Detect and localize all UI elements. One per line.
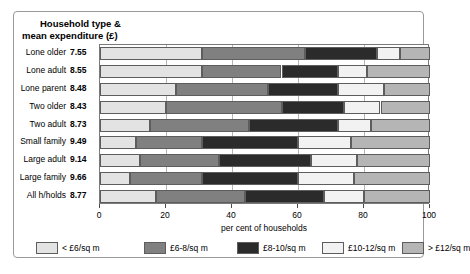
bar-row [100, 154, 428, 167]
bar-segment [100, 190, 156, 203]
y-axis-label-value: 9.66 [70, 171, 96, 184]
bar-segment [150, 119, 249, 132]
x-axis-tick-label: 40 [211, 210, 251, 220]
bar-segment [100, 119, 150, 132]
y-axis-label-name: Lone adult [26, 64, 66, 77]
chart-figure: Household type & mean expenditure (£) Lo… [13, 11, 424, 258]
bar-row [100, 172, 428, 185]
legend-swatch [237, 242, 259, 254]
x-axis-tick-label: 100 [409, 210, 449, 220]
bar-segment [324, 190, 364, 203]
bar-row [100, 83, 428, 96]
bar-segment [140, 154, 219, 167]
bar-segment [100, 65, 202, 78]
bar-segment [176, 83, 268, 96]
y-axis-label-name: Lone older [26, 46, 66, 59]
bar-segment [100, 101, 166, 114]
y-axis-label: Lone parent8.48 [14, 82, 96, 95]
bar-segment [377, 47, 400, 60]
x-axis-tick [99, 204, 100, 208]
chart-header-line2: mean expenditure (£) [22, 30, 212, 42]
bar-segment [202, 47, 304, 60]
bar-segment [354, 172, 430, 185]
bar-segment [249, 119, 338, 132]
bar-segment [384, 83, 430, 96]
bar-segment [100, 83, 176, 96]
legend: < £6/sq m£6-8/sq m£8-10/sq m£10-12/sq m>… [22, 240, 417, 256]
y-axis-label-name: Large family [20, 171, 66, 184]
bar-segment [371, 119, 430, 132]
bar-segment [100, 154, 140, 167]
bar-segment [344, 101, 380, 114]
legend-swatch [402, 242, 424, 254]
y-axis-label-value: 8.48 [70, 82, 96, 95]
y-axis-label-value: 8.55 [70, 64, 96, 77]
y-axis-label-name: Small family [20, 135, 66, 148]
legend-label: £6-8/sq m [170, 243, 208, 253]
bar-segment [364, 190, 430, 203]
chart-header: Household type & mean expenditure (£) [22, 18, 212, 42]
bar-segment [136, 136, 202, 149]
x-axis-title: per cent of households [99, 223, 429, 233]
bar-segment [338, 65, 368, 78]
y-axis-label-name: Lone parent [21, 82, 66, 95]
bar-segment [166, 101, 282, 114]
bar-segment [219, 154, 311, 167]
x-axis-tick-label: 80 [343, 210, 383, 220]
bar-segment [338, 83, 384, 96]
bar-segment [357, 154, 430, 167]
legend-item[interactable]: < £6/sq m [36, 240, 100, 256]
bar-segment [311, 154, 357, 167]
x-axis-tick-label: 60 [277, 210, 317, 220]
bar-segment [100, 136, 136, 149]
y-axis-label-name: Two adult [30, 118, 66, 131]
bar-segment [400, 47, 430, 60]
y-axis-label: Small family9.49 [14, 135, 96, 148]
legend-label: £10-12/sq m [348, 243, 395, 253]
bar-segment [245, 190, 324, 203]
bar-row [100, 190, 428, 203]
y-axis-label: Two older8.43 [14, 100, 96, 113]
bar-segment [338, 119, 371, 132]
x-axis-tick [231, 204, 232, 208]
bar-segment [351, 136, 430, 149]
y-axis-label: Lone adult8.55 [14, 64, 96, 77]
legend-swatch [36, 242, 58, 254]
y-axis-label-value: 8.73 [70, 118, 96, 131]
legend-item[interactable]: £6-8/sq m [144, 240, 208, 256]
y-axis-label-name: Two older [29, 100, 66, 113]
bar-row [100, 101, 428, 114]
legend-label: > £12/sq m [428, 243, 470, 253]
bar-segment [202, 65, 281, 78]
bar-segment [202, 172, 298, 185]
bar-row [100, 136, 428, 149]
legend-item[interactable]: £10-12/sq m [322, 240, 395, 256]
y-axis-label-name: Large adult [23, 153, 66, 166]
x-axis-tick-label: 20 [145, 210, 185, 220]
legend-item[interactable]: > £12/sq m [402, 240, 470, 256]
bar-segment [268, 83, 337, 96]
bar-segment [305, 47, 378, 60]
y-axis-label: Large adult9.14 [14, 153, 96, 166]
legend-swatch [144, 242, 166, 254]
bar-segment [282, 101, 345, 114]
legend-item[interactable]: £8-10/sq m [237, 240, 306, 256]
x-axis-tick [429, 204, 430, 208]
bar-segment [282, 65, 338, 78]
y-axis-label: Large family9.66 [14, 171, 96, 184]
plot-area [99, 44, 429, 204]
bar-segment [100, 172, 130, 185]
bar-segment [367, 65, 430, 78]
legend-swatch [322, 242, 344, 254]
y-axis-label-value: 9.14 [70, 153, 96, 166]
legend-label: < £6/sq m [62, 243, 100, 253]
x-axis-tick [165, 204, 166, 208]
bar-segment [100, 47, 202, 60]
bar-segment [381, 101, 431, 114]
y-axis-label-value: 7.55 [70, 46, 96, 59]
chart-header-line1: Household type & [22, 18, 212, 30]
bar-segment [156, 190, 245, 203]
y-axis-label-value: 9.49 [70, 135, 96, 148]
x-axis-tick [363, 204, 364, 208]
y-axis-label-name: All h/holds [27, 189, 66, 202]
